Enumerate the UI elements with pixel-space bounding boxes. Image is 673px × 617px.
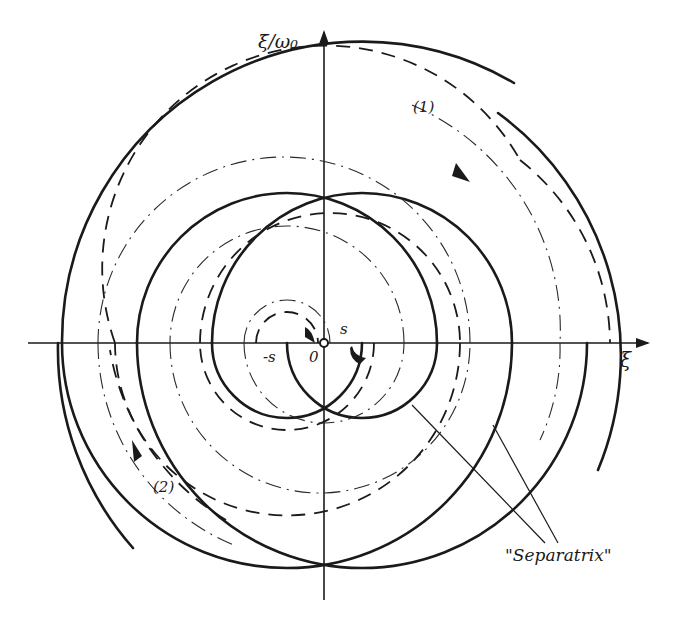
arrow-inner-left: [305, 327, 315, 343]
origin-marker: [320, 339, 328, 347]
arrow-trajectory-2: [132, 440, 142, 462]
separatrix-spiral-b: [137, 193, 587, 568]
trajectory-1-label: (1): [413, 98, 434, 116]
origin-label: 0: [309, 348, 319, 366]
arrow-trajectory-1: [452, 163, 470, 182]
s-pos-label: s: [340, 320, 348, 338]
separatrix-label: "Separatrix": [505, 545, 612, 565]
x-axis-label: ξ: [620, 348, 631, 372]
outer-arc-right: [498, 113, 621, 470]
outer-arc-left: [58, 343, 133, 548]
separatrix-leader-2: [493, 425, 558, 543]
arrow-inner-right: [350, 346, 366, 364]
trajectory-2-label: (2): [153, 478, 174, 496]
y-axis-label: ξ̇/ω₀: [258, 30, 298, 52]
s-neg-label: -s: [263, 348, 276, 366]
phase-plane-diagram: [0, 0, 673, 617]
dashed-trajectory: [102, 46, 610, 520]
separatrix-leader-1: [412, 405, 545, 543]
